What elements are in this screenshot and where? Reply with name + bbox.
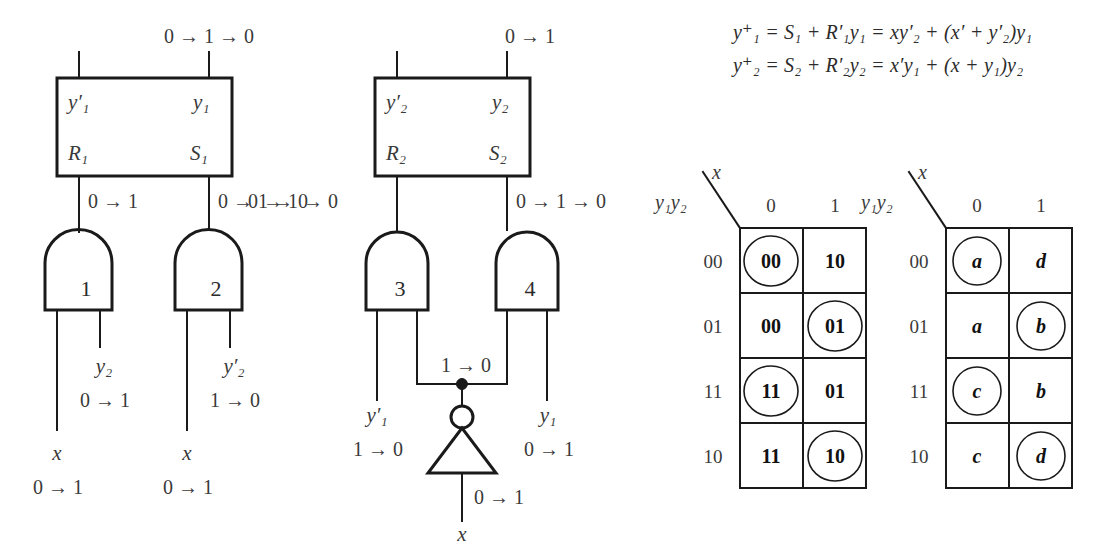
transition-map-row-header-2: 11 (704, 382, 722, 401)
transition-map-corner-col-label: x (712, 162, 721, 182)
state-map-cell-r0c0: a (972, 251, 982, 271)
state-map-col-header-0: 0 (972, 196, 982, 215)
latch-2-port-y2: y₂ (492, 92, 509, 113)
transition-map-row-header-1: 01 (704, 317, 723, 336)
inverter-input-label: x (457, 524, 466, 545)
gate-4-input-y1-transition: 0 → 1 (524, 439, 574, 459)
gate-2-number: 2 (211, 278, 222, 300)
latch-1-port-y1: y₁ (193, 92, 210, 113)
transition-map-cell-r3c0: 11 (762, 446, 781, 466)
state-map-cell-r0c1: d (1036, 251, 1046, 271)
latch-2-out-left-label: 0 → 1 → 0 (248, 191, 338, 211)
equation-y2: y⁺₂ = S₂ + R′₂y₂ = x′y₁ + (x + y₁)y₂ (733, 55, 1023, 75)
latch-2-top-wire-label: 0 → 1 (505, 26, 555, 46)
gate-2-input-x-transition: 0 → 1 (163, 477, 213, 497)
latch-2-port-R2: R₂ (386, 143, 406, 164)
state-map-cell-r3c0: c (973, 446, 982, 466)
transition-map-cell-r1c0: 00 (761, 316, 781, 336)
transition-map-row-header-3: 10 (704, 447, 723, 466)
gate-1-number: 1 (81, 278, 92, 300)
state-map-cell-r1c0: a (972, 316, 982, 336)
state-map-cell-r3c1: d (1036, 446, 1046, 466)
gate-1-input-y2-transition: 0 → 1 (80, 390, 130, 410)
transition-map-cell-r0c1: 10 (825, 251, 845, 271)
inverter-triangle (428, 428, 496, 473)
transition-map-col-header-1: 1 (830, 196, 840, 215)
latch-1-top-wire-label: 0 → 1 → 0 (164, 26, 254, 46)
inverter-bus-label: 1 → 0 (441, 355, 491, 375)
state-map-row-header-2: 11 (910, 382, 928, 401)
transition-map-cell-r3c1: 10 (825, 446, 845, 466)
transition-map-cell-r1c1: 01 (825, 316, 845, 336)
gate-2-input-x-label: x (182, 443, 191, 464)
state-map-row-header-1: 01 (910, 317, 929, 336)
latch-1-out-left-label: 0 → 1 (88, 191, 138, 211)
transition-map-cell-r0c0: 00 (761, 251, 781, 271)
gate-3-input-y1-prime-label: y′₁ (366, 405, 387, 426)
latch-2-out-right-label: 0 → 1 → 0 (516, 191, 606, 211)
gate-3-number: 3 (395, 278, 406, 300)
circuit-artwork (0, 0, 1104, 551)
latch-1-port-y1-prime: y′₁ (68, 92, 89, 113)
latch-1-port-R1: R₁ (68, 143, 88, 164)
inverter-bubble (451, 406, 473, 428)
gate-1-input-x-transition: 0 → 1 (33, 477, 83, 497)
gate-2-input-y2-prime-label: y′₂ (223, 356, 244, 377)
gate-1-input-x-label: x (52, 443, 61, 464)
state-map-row-header-3: 10 (910, 447, 929, 466)
transition-map-corner-diagonal (703, 172, 740, 228)
state-map-cell-r2c0: c (973, 381, 982, 401)
gate-4-number: 4 (525, 278, 536, 300)
gate-4-input-y1-label: y₁ (540, 405, 557, 426)
state-map-corner-row-label: y₁y₂ (861, 192, 893, 212)
state-map-col-header-1: 1 (1036, 196, 1046, 215)
junction-dot (457, 379, 468, 390)
state-map-corner-diagonal (909, 172, 946, 228)
state-map-cell-r1c1: b (1036, 316, 1046, 336)
transition-map-row-header-0: 00 (704, 252, 723, 271)
state-map-row-header-0: 00 (910, 252, 929, 271)
gate-2-input-y2-prime-transition: 1 → 0 (210, 390, 260, 410)
latch-1-port-S1: S₁ (190, 143, 208, 164)
inverter-input-transition: 0 → 1 (474, 487, 524, 507)
state-map-cell-r2c1: b (1036, 381, 1046, 401)
gate-3-input-y1-prime-transition: 1 → 0 (353, 439, 403, 459)
figure-canvas: 0 → 1 → 0 y′₁ y₁ R₁ S₁ 0 → 1 0 → 1 → 0 1… (0, 0, 1104, 551)
latch-2-port-y2-prime: y′₂ (386, 92, 407, 113)
transition-map-col-header-0: 0 (766, 196, 776, 215)
transition-map-cell-r2c0: 11 (762, 381, 781, 401)
gate-2-body (175, 230, 242, 311)
gate-1-body (45, 230, 112, 310)
equation-y1: y⁺₁ = S₁ + R′₁y₁ = xy′₂ + (x′ + y′₂)y₁ (733, 22, 1033, 42)
state-map-corner-col-label: x (918, 162, 927, 182)
transition-map-corner-row-label: y₁y₂ (655, 192, 687, 212)
gate-1-input-y2-label: y₂ (96, 356, 113, 377)
transition-map-cell-r2c1: 01 (825, 381, 845, 401)
latch-2-port-S2: S₂ (489, 143, 507, 164)
